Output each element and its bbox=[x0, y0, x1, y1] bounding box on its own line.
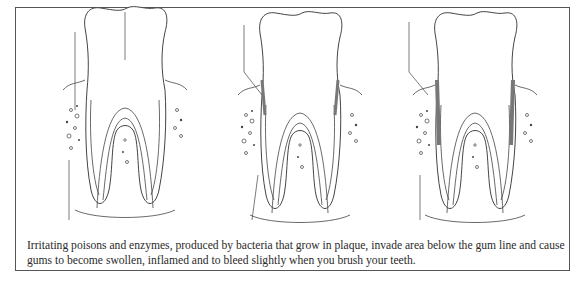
panel-gingivitis bbox=[238, 12, 362, 223]
figure-caption: Irritating poisons and enzymes, produced… bbox=[27, 238, 567, 268]
panel-advanced bbox=[413, 12, 537, 223]
panel-healthy bbox=[63, 7, 187, 218]
